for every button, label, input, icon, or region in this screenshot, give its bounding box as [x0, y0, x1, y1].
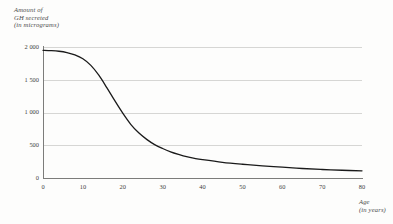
x-axis-label-line-1: Age	[359, 198, 386, 206]
gridline-y-3	[43, 80, 362, 81]
y-tick-label: 500	[29, 142, 39, 148]
y-tick-label: 1 500	[25, 77, 39, 83]
y-tick-label: 1 000	[25, 109, 39, 115]
x-tick-label: 50	[239, 184, 245, 190]
x-tick-label: 0	[41, 184, 44, 190]
x-axis-line	[43, 178, 363, 179]
chart-figure: Amount of GH secreted (in micrograms) Ag…	[0, 0, 393, 224]
x-tick-label: 20	[120, 184, 126, 190]
y-tick-label: 0	[36, 175, 39, 181]
x-tick-label: 30	[159, 184, 165, 190]
x-axis-label: Age (in years)	[359, 198, 386, 213]
x-tick-label: 40	[199, 184, 205, 190]
x-tick-label: 60	[279, 184, 285, 190]
y-axis-line	[43, 46, 44, 179]
gridline-y-1	[43, 145, 362, 146]
x-tick-label: 80	[359, 184, 365, 190]
y-axis-ticks: 05001 0001 5002 000	[0, 0, 39, 224]
gridline-y-2	[43, 113, 362, 114]
x-tick-label: 10	[80, 184, 86, 190]
y-tick-label: 2 000	[25, 44, 39, 50]
plot-area	[43, 47, 362, 178]
x-axis-label-line-2: (in years)	[359, 206, 386, 214]
gridline-y-4	[43, 47, 362, 48]
x-tick-label: 70	[319, 184, 325, 190]
